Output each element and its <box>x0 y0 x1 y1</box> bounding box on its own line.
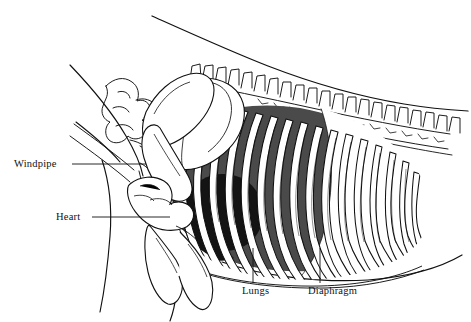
label-heart: Heart <box>56 211 80 222</box>
label-diaphragm: Diaphragm <box>308 285 357 296</box>
anatomy-illustration <box>0 0 471 322</box>
label-windpipe: Windpipe <box>14 158 57 169</box>
label-lungs: Lungs <box>242 285 269 296</box>
anatomy-diagram: Windpipe Heart Lungs Diaphragm <box>0 0 471 322</box>
